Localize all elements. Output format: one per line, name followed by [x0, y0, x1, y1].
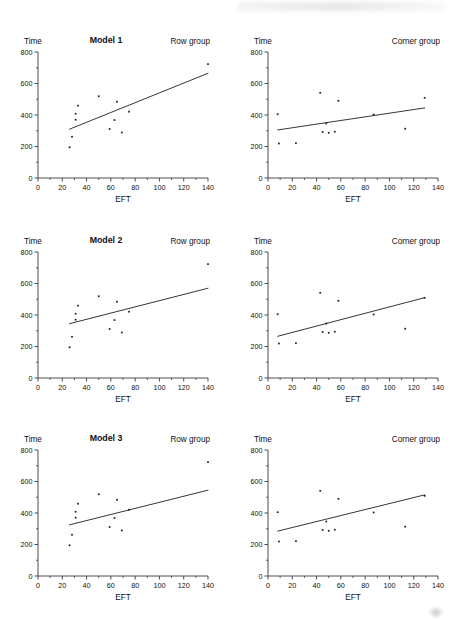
data-point: [295, 540, 297, 542]
data-point: [328, 132, 330, 134]
x-tick-label: 0: [36, 581, 40, 590]
panel-group-label: Row group: [170, 237, 210, 246]
y-tick-label: 400: [251, 111, 263, 120]
panel-group-label: Corner group: [392, 237, 441, 246]
panel-model2-row: TimeModel 2Row group02004006008000204060…: [8, 226, 220, 412]
data-point: [424, 97, 426, 99]
y-tick-label: 0: [29, 572, 33, 581]
x-tick-label: 60: [107, 383, 115, 392]
data-point: [338, 100, 340, 102]
data-point: [116, 301, 118, 303]
y-tick-label: 400: [251, 311, 263, 320]
x-tick-label: 100: [383, 581, 395, 590]
x-tick-label: 60: [337, 183, 345, 192]
y-tick-label: 0: [259, 572, 263, 581]
data-point: [325, 123, 327, 125]
data-point: [128, 311, 130, 313]
panel-model-title: Model 3: [90, 433, 123, 443]
x-tick-label: 60: [337, 581, 345, 590]
data-point: [322, 131, 324, 133]
data-point: [328, 332, 330, 334]
y-axis-label: Time: [24, 435, 42, 444]
y-tick-label: 200: [251, 342, 263, 351]
x-tick-label: 60: [107, 581, 115, 590]
data-point: [71, 136, 73, 138]
y-axis-label: Time: [24, 237, 42, 246]
data-point: [404, 328, 406, 330]
data-point: [121, 332, 123, 334]
x-tick-label: 140: [432, 581, 444, 590]
x-tick-label: 20: [58, 383, 66, 392]
data-point: [424, 297, 426, 299]
data-point: [322, 331, 324, 333]
x-tick-label: 100: [383, 183, 395, 192]
x-tick-label: 120: [408, 183, 420, 192]
data-point: [373, 512, 375, 514]
y-tick-label: 600: [251, 279, 263, 288]
y-tick-label: 800: [251, 48, 263, 57]
data-point: [278, 343, 280, 345]
data-point: [278, 541, 280, 543]
y-tick-label: 600: [251, 79, 263, 88]
data-point: [334, 529, 336, 531]
x-tick-label: 0: [36, 183, 40, 192]
x-axis-label: EFT: [115, 395, 130, 404]
regression-line: [70, 73, 208, 129]
data-point: [114, 319, 116, 321]
y-tick-label: 600: [21, 477, 33, 486]
data-point: [207, 63, 209, 65]
data-point: [128, 509, 130, 511]
x-tick-label: 40: [83, 183, 91, 192]
data-point: [404, 128, 406, 130]
x-tick-label: 140: [432, 183, 444, 192]
data-point: [116, 101, 118, 103]
data-point: [295, 342, 297, 344]
y-axis-label: Time: [254, 237, 272, 246]
x-tick-label: 100: [153, 383, 165, 392]
y-tick-label: 600: [21, 279, 33, 288]
data-point: [278, 143, 280, 145]
data-point: [77, 305, 79, 307]
panel-model-title: Model 2: [90, 235, 123, 245]
y-tick-label: 0: [259, 374, 263, 383]
data-point: [75, 517, 77, 519]
x-tick-label: 80: [131, 183, 139, 192]
x-tick-label: 60: [337, 383, 345, 392]
data-point: [69, 544, 71, 546]
data-point: [325, 521, 327, 523]
x-tick-label: 0: [266, 183, 270, 192]
data-point: [69, 146, 71, 148]
y-tick-label: 800: [21, 248, 33, 257]
y-tick-label: 0: [29, 374, 33, 383]
data-point: [109, 328, 111, 330]
data-point: [334, 331, 336, 333]
data-point: [75, 511, 77, 513]
panel-model1-corner: TimeCorner group020040060080002040608010…: [238, 26, 450, 212]
x-tick-label: 40: [313, 383, 321, 392]
x-tick-label: 20: [58, 183, 66, 192]
x-tick-label: 20: [288, 183, 296, 192]
y-tick-label: 200: [21, 142, 33, 151]
regression-line: [70, 490, 208, 525]
x-tick-label: 0: [266, 383, 270, 392]
data-point: [75, 313, 77, 315]
x-axis-label: EFT: [115, 593, 130, 602]
panel-model3-row: TimeModel 3Row group02004006008000204060…: [8, 424, 220, 610]
data-point: [98, 295, 100, 297]
data-point: [75, 113, 77, 115]
y-tick-label: 200: [21, 540, 33, 549]
x-tick-label: 20: [288, 383, 296, 392]
x-tick-label: 80: [131, 383, 139, 392]
data-point: [338, 300, 340, 302]
data-point: [319, 490, 321, 492]
data-point: [277, 113, 279, 115]
y-tick-label: 400: [251, 509, 263, 518]
panel-group-label: Corner group: [392, 435, 441, 444]
data-point: [71, 336, 73, 338]
x-tick-label: 140: [432, 383, 444, 392]
panel-group-label: Row group: [170, 37, 210, 46]
x-tick-label: 80: [361, 383, 369, 392]
x-tick-label: 0: [36, 383, 40, 392]
y-tick-label: 800: [251, 446, 263, 455]
y-tick-label: 200: [251, 540, 263, 549]
